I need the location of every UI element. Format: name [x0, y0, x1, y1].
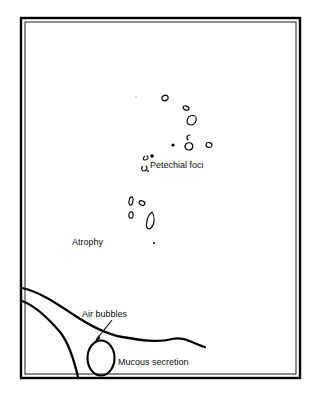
petechial-dot — [150, 154, 154, 158]
figure-frame-outer — [21, 18, 300, 378]
label-mucous-secretion: Mucous secretion — [118, 357, 189, 367]
petechial-dot — [171, 143, 174, 146]
petechial-dot — [147, 170, 149, 172]
figure-canvas: Petechial foci Atrophy Air bubbles Mucou… — [0, 0, 320, 401]
medical-line-drawing — [0, 0, 320, 401]
label-atrophy: Atrophy — [72, 237, 103, 247]
atrophy-dot — [153, 242, 155, 244]
label-air-bubbles: Air bubbles — [82, 309, 127, 319]
faint-speck — [135, 96, 136, 97]
label-petechial-foci: Petechial foci — [150, 160, 204, 170]
